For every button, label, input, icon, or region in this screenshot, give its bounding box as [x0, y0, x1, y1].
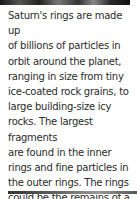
text-line: of billions of particles in	[8, 38, 136, 53]
text-line: orbit around the planet,	[8, 54, 136, 69]
article-paragraph: Saturn's rings are made up of billions o…	[8, 8, 136, 199]
text-line: Saturn's rings are made up	[8, 8, 136, 38]
text-line: the outer rings. The rings	[8, 175, 136, 190]
saturn-rings-image	[0, 0, 130, 5]
text-line: ranging in size from tiny	[8, 69, 136, 84]
text-line: ice-coated rock grains, to	[8, 84, 136, 99]
divider-rule	[8, 191, 137, 194]
text-line: large building-size icy	[8, 99, 136, 114]
text-line: are found in the inner	[8, 145, 136, 160]
text-line: rings and fine particles in	[8, 160, 136, 175]
text-line: rocks. The largest fragments	[8, 114, 136, 144]
